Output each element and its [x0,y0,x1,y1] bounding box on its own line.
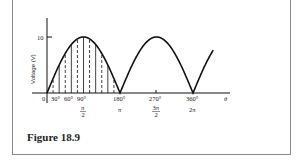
radian-label-3pi-over-2-den: 2 [155,111,158,118]
radian-label-pi-over-2-den: 2 [82,111,85,118]
x-tick-label-60: 60° [64,95,74,102]
rectified-sine-curve [47,37,213,93]
x-axis-label-theta: θ [224,95,228,102]
x-tick-label-90: 90° [77,95,87,102]
x-tick-label-0: 0 [42,95,45,102]
ordinate-strips [53,37,114,93]
x-tick-label-180: 180° [113,95,126,102]
x-tick-label-30: 30° [51,95,61,102]
radian-label-3pi-over-2-num: 3π [153,104,160,111]
radian-label-pi: π [118,106,122,113]
x-tick-label-270: 270° [149,95,162,102]
y-axis-label: Voltage (V) [30,54,36,84]
figure-caption: Figure 18.9 [27,131,80,143]
radian-label-pi-over-2-num: π [81,104,85,111]
y-tick-label-10: 10 [37,34,44,41]
radian-label-2pi: 2π [189,106,196,113]
x-tick-label-360: 360° [186,95,199,102]
